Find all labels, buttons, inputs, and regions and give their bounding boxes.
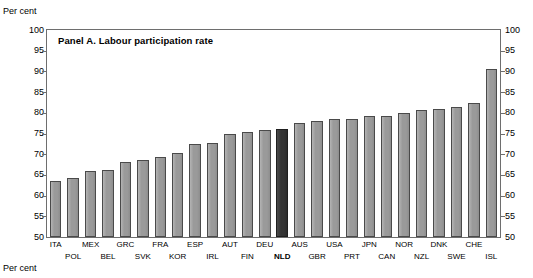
bar-nzl [416, 110, 427, 238]
x-label-prt: PRT [335, 252, 369, 261]
x-label-kor: KOR [161, 252, 195, 261]
y-tick-mark-left-90 [42, 71, 46, 72]
y-tick-mark-right-90 [501, 71, 505, 72]
y-tick-mark-left-55 [42, 216, 46, 217]
y-tick-label-right-60: 60 [505, 191, 533, 200]
y-tick-mark-left-70 [42, 154, 46, 155]
x-label-ita: ITA [39, 240, 73, 249]
y-tick-mark-right-85 [501, 92, 505, 93]
y-tick-label-right-90: 90 [505, 67, 533, 76]
bar-gbr [311, 121, 322, 237]
x-label-aut: AUT [213, 240, 247, 249]
y-tick-label-left-60: 60 [4, 191, 44, 200]
y-tick-label-left-75: 75 [4, 129, 44, 138]
x-label-irl: IRL [196, 252, 230, 261]
x-label-fin: FIN [230, 252, 264, 261]
y-tick-mark-left-80 [42, 113, 46, 114]
x-label-svk: SVK [126, 252, 160, 261]
y-tick-label-right-100: 100 [505, 26, 533, 35]
bar-swe [451, 107, 462, 237]
y-tick-mark-right-60 [501, 196, 505, 197]
bar-fin [242, 132, 253, 237]
y-tick-label-left-90: 90 [4, 67, 44, 76]
bar-can [381, 116, 392, 237]
bar-nor [398, 113, 409, 237]
x-label-can: CAN [370, 252, 404, 261]
y-tick-label-right-70: 70 [505, 150, 533, 159]
x-label-dnk: DNK [422, 240, 456, 249]
bar-svk [137, 160, 148, 237]
y-tick-label-left-85: 85 [4, 88, 44, 97]
bar-jpn [364, 116, 375, 237]
x-label-gbr: GBR [300, 252, 334, 261]
x-label-aus: AUS [283, 240, 317, 249]
bar-che [468, 103, 479, 237]
bar-prt [346, 119, 357, 237]
y-tick-mark-right-95 [501, 51, 505, 52]
y-tick-label-right-75: 75 [505, 129, 533, 138]
bar-aus [294, 123, 305, 237]
y-tick-label-right-65: 65 [505, 170, 533, 179]
x-label-swe: SWE [439, 252, 473, 261]
bar-series [47, 30, 500, 237]
y-tick-mark-right-80 [501, 113, 505, 114]
x-label-nld: NLD [265, 252, 299, 261]
bar-dnk [433, 109, 444, 237]
bar-nld [276, 129, 287, 237]
x-label-mex: MEX [74, 240, 108, 249]
y-tick-mark-left-75 [42, 134, 46, 135]
bar-bel [102, 170, 113, 237]
x-label-deu: DEU [248, 240, 282, 249]
x-label-bel: BEL [91, 252, 125, 261]
bar-aut [224, 134, 235, 237]
bar-deu [259, 130, 270, 237]
bar-mex [85, 171, 96, 237]
y-tick-mark-left-95 [42, 51, 46, 52]
percent-label-bottom: Per cent [3, 263, 37, 273]
y-tick-mark-left-65 [42, 175, 46, 176]
bar-pol [67, 178, 78, 237]
y-tick-mark-right-70 [501, 154, 505, 155]
bar-irl [207, 143, 218, 237]
y-tick-mark-left-60 [42, 196, 46, 197]
x-label-esp: ESP [178, 240, 212, 249]
y-tick-label-left-95: 95 [4, 46, 44, 55]
percent-label-top: Per cent [3, 6, 37, 16]
x-label-pol: POL [56, 252, 90, 261]
y-tick-mark-left-85 [42, 92, 46, 93]
y-tick-label-right-50: 50 [505, 233, 533, 242]
x-label-che: CHE [457, 240, 491, 249]
bar-usa [329, 119, 340, 237]
y-tick-label-left-80: 80 [4, 108, 44, 117]
x-label-nzl: NZL [405, 252, 439, 261]
y-tick-label-left-65: 65 [4, 170, 44, 179]
x-label-isl: ISL [474, 252, 508, 261]
x-label-jpn: JPN [352, 240, 386, 249]
bar-fra [155, 157, 166, 237]
y-tick-label-right-80: 80 [505, 108, 533, 117]
y-tick-label-left-100: 100 [4, 26, 44, 35]
bar-ita [50, 181, 61, 237]
y-tick-mark-right-65 [501, 175, 505, 176]
x-label-usa: USA [317, 240, 351, 249]
y-tick-label-right-95: 95 [505, 46, 533, 55]
y-tick-label-left-70: 70 [4, 150, 44, 159]
bar-isl [486, 69, 497, 237]
y-tick-label-left-55: 55 [4, 212, 44, 221]
x-label-grc: GRC [108, 240, 142, 249]
bar-kor [172, 153, 183, 237]
y-tick-mark-right-55 [501, 216, 505, 217]
y-tick-label-right-85: 85 [505, 88, 533, 97]
x-label-nor: NOR [387, 240, 421, 249]
y-tick-label-right-55: 55 [505, 212, 533, 221]
x-label-fra: FRA [143, 240, 177, 249]
bar-grc [120, 162, 131, 237]
bar-esp [189, 144, 200, 237]
chart-figure: Per cent Panel A. Labour participation r… [0, 0, 533, 278]
y-tick-mark-right-75 [501, 134, 505, 135]
